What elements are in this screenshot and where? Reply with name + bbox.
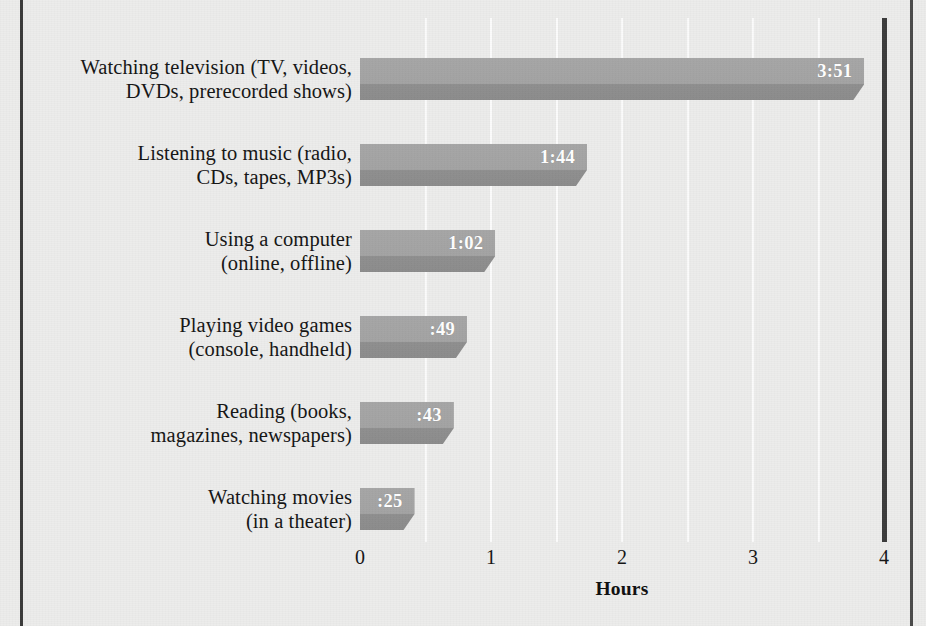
bar-value-label: :43	[416, 402, 442, 428]
category-label-line1: Watching television (TV, videos,	[80, 56, 352, 78]
bar-row: :43	[360, 402, 454, 444]
bar: 1:02	[360, 230, 495, 272]
category-label-line2: CDs, tapes, MP3s)	[30, 165, 352, 189]
bar-value-label: 1:44	[540, 144, 575, 170]
category-label-line2: (in a theater)	[30, 509, 352, 533]
bar: 3:51	[360, 58, 864, 100]
category-label: Watching television (TV, videos,DVDs, pr…	[30, 55, 352, 103]
bar: :43	[360, 402, 454, 444]
figure-right-rule	[910, 0, 913, 626]
category-label: Reading (books,magazines, newspapers)	[30, 399, 352, 447]
category-label-line2: magazines, newspapers)	[30, 423, 352, 447]
bar-row: :49	[360, 316, 467, 358]
bar-value-label: :49	[429, 316, 455, 342]
category-label: Using a computer(online, offline)	[30, 227, 352, 275]
bar: :25	[360, 488, 415, 530]
x-axis-ticks: 01234	[360, 546, 884, 576]
bar-value-label: :25	[377, 488, 403, 514]
category-label-line2: (online, offline)	[30, 251, 352, 275]
bar: 1:44	[360, 144, 587, 186]
bar-chart-figure: 3:511:441:02:49:43:25 Watching televisio…	[0, 0, 926, 626]
category-label-line1: Using a computer	[205, 228, 352, 250]
bar-fill	[360, 58, 864, 100]
x-axis-title: Hours	[360, 578, 884, 600]
category-label-line1: Playing video games	[179, 314, 352, 336]
category-label: Listening to music (radio,CDs, tapes, MP…	[30, 141, 352, 189]
category-label-line1: Watching movies	[208, 486, 352, 508]
figure-left-rule	[20, 0, 23, 626]
bar-row: 1:44	[360, 144, 587, 186]
category-label-line2: (console, handheld)	[30, 337, 352, 361]
bar-row: :25	[360, 488, 415, 530]
x-tick-label: 1	[486, 546, 496, 569]
bar-value-label: 3:51	[817, 58, 852, 84]
x-tick-label: 4	[879, 546, 889, 569]
axis-end-rule	[882, 18, 887, 542]
x-tick-label: 3	[748, 546, 758, 569]
bar-row: 3:51	[360, 58, 864, 100]
category-label-line1: Reading (books,	[216, 400, 352, 422]
bar: :49	[360, 316, 467, 358]
category-label-line1: Listening to music (radio,	[138, 142, 352, 164]
bar-row: 1:02	[360, 230, 495, 272]
category-label: Watching movies(in a theater)	[30, 485, 352, 533]
x-tick-label: 2	[617, 546, 627, 569]
plot-area: 3:511:441:02:49:43:25	[360, 18, 884, 542]
bar-value-label: 1:02	[448, 230, 483, 256]
category-label-column: Watching television (TV, videos,DVDs, pr…	[30, 18, 352, 542]
category-label-line2: DVDs, prerecorded shows)	[30, 79, 352, 103]
category-label: Playing video games(console, handheld)	[30, 313, 352, 361]
x-tick-label: 0	[355, 546, 365, 569]
